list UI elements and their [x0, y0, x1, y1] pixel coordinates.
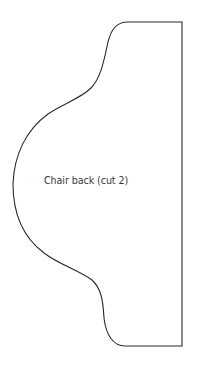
piece-label: Chair back (cut 2) [44, 175, 136, 186]
